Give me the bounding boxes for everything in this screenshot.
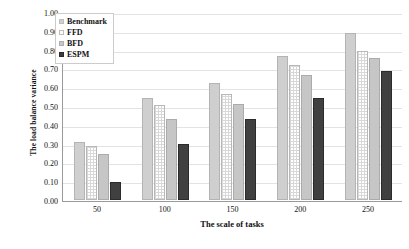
bar-espm-50[interactable]	[110, 182, 121, 200]
y-tick-label: 0.80	[22, 48, 58, 56]
legend-item-benchmark[interactable]: Benchmark	[59, 16, 107, 27]
bar-group-200	[267, 14, 335, 200]
bar-bfd-50[interactable]	[98, 154, 109, 200]
y-tick-label: 0.00	[22, 198, 58, 206]
bar-bfd-100[interactable]	[166, 119, 177, 200]
bar-group-150	[199, 14, 267, 200]
y-tick-label: 0.20	[22, 160, 58, 168]
legend-swatch-icon	[59, 19, 64, 24]
legend-label: Benchmark	[67, 17, 107, 26]
bar-espm-150[interactable]	[245, 119, 256, 200]
bar-espm-250[interactable]	[381, 71, 392, 200]
legend-label: BFD	[67, 39, 83, 48]
y-tick-label: 0.30	[22, 142, 58, 150]
bar-ffd-50[interactable]	[86, 146, 97, 200]
y-tick-label: 0.10	[22, 179, 58, 187]
bar-benchmark-100[interactable]	[142, 98, 153, 200]
bar-bfd-150[interactable]	[233, 104, 244, 200]
y-tick-label: 0.40	[22, 123, 58, 131]
bar-ffd-200[interactable]	[289, 65, 300, 200]
x-tick-label: 100	[131, 205, 199, 214]
bar-ffd-250[interactable]	[357, 51, 368, 200]
bar-bfd-200[interactable]	[301, 75, 312, 200]
x-axis-title: The scale of tasks	[62, 219, 402, 229]
legend-label: ESPM	[67, 50, 89, 59]
legend: BenchmarkFFDBFDESPM	[55, 13, 114, 64]
legend-swatch-icon	[59, 41, 64, 46]
x-tick-label: 200	[266, 205, 334, 214]
y-tick-label: 0.70	[22, 66, 58, 74]
y-tick-label: 1.00	[22, 10, 58, 18]
bar-group-250	[334, 14, 402, 200]
y-tick-label: 0.90	[22, 29, 58, 37]
legend-swatch-icon	[59, 30, 64, 35]
legend-item-espm[interactable]: ESPM	[59, 49, 107, 60]
y-axis-tick-labels: 1.000.900.800.700.600.500.400.300.200.10…	[22, 14, 58, 202]
bar-espm-200[interactable]	[313, 98, 324, 200]
bar-bfd-250[interactable]	[369, 58, 380, 200]
bar-group-100	[132, 14, 200, 200]
y-tick-label: 0.60	[22, 85, 58, 93]
y-tick-label: 0.50	[22, 104, 58, 112]
legend-item-bfd[interactable]: BFD	[59, 38, 107, 49]
x-tick-label: 250	[334, 205, 402, 214]
bar-chart: The load balance variance 1.000.900.800.…	[0, 0, 409, 249]
bar-ffd-100[interactable]	[154, 105, 165, 200]
legend-swatch-icon	[59, 52, 64, 57]
bar-benchmark-50[interactable]	[74, 142, 85, 200]
legend-item-ffd[interactable]: FFD	[59, 27, 107, 38]
bar-ffd-150[interactable]	[221, 94, 232, 200]
legend-label: FFD	[67, 28, 83, 37]
bar-benchmark-150[interactable]	[209, 83, 220, 201]
bar-groups	[64, 14, 402, 200]
bar-benchmark-250[interactable]	[345, 33, 356, 200]
bar-espm-100[interactable]	[178, 144, 189, 200]
x-axis-tick-labels: 50100150200250	[63, 205, 402, 214]
bar-benchmark-200[interactable]	[277, 56, 288, 200]
x-tick-label: 150	[199, 205, 267, 214]
x-tick-label: 50	[63, 205, 131, 214]
